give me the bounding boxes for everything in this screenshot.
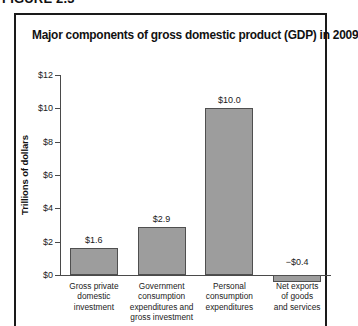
bar [138, 227, 186, 275]
y-tick-mark [55, 208, 60, 209]
y-tick-mark [55, 242, 60, 243]
bar-value-label: $2.9 [153, 214, 171, 224]
bar-value-label: $10.0 [218, 95, 241, 105]
figure-caption: FIGURE 2.3 [2, 0, 75, 6]
y-tick-label: $10 [38, 103, 53, 113]
y-axis-title: Trillions of dollars [19, 135, 30, 215]
bar [205, 108, 253, 275]
page-title: Major components of gross domestic produ… [32, 28, 306, 42]
y-tick-label: $0 [43, 270, 53, 280]
bar [70, 248, 118, 275]
y-tick-label: $6 [43, 170, 53, 180]
y-tick-mark [55, 75, 60, 76]
y-tick-label: $4 [43, 203, 53, 213]
y-tick-mark [55, 142, 60, 143]
bar-chart-plot: Trillions of dollars $0$2$4$6$8$10$12$1.… [60, 75, 331, 275]
y-axis-line [60, 75, 61, 275]
bar-value-label: −$0.4 [286, 257, 309, 267]
y-tick-mark [55, 108, 60, 109]
figure-panel: Major components of gross domestic produ… [14, 13, 327, 326]
y-tick-mark [55, 175, 60, 176]
y-tick-mark [55, 275, 60, 276]
x-category-label: Net exports of goods and services [256, 281, 338, 312]
y-tick-label: $12 [38, 70, 53, 80]
y-tick-label: $2 [43, 237, 53, 247]
bar-value-label: $1.6 [85, 235, 103, 245]
y-tick-label: $8 [43, 137, 53, 147]
